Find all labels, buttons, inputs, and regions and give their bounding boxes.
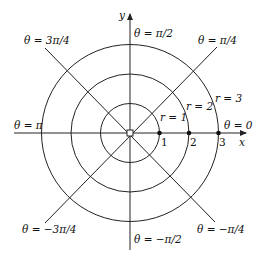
label-r3: r = 3 <box>215 92 242 104</box>
point-r1 <box>157 131 162 136</box>
label-theta-3pi4: θ = 3π/4 <box>24 34 70 46</box>
label-r2: r = 2 <box>186 100 213 112</box>
label-theta-neg-3pi4: θ = −3π/4 <box>22 223 76 235</box>
polar-diagram: 1 2 3 x y r = 1 r = 2 r = 3 θ = 0 θ = π/… <box>0 0 258 262</box>
label-theta-pi2: θ = π/2 <box>134 27 173 39</box>
label-theta-pi: θ = π <box>14 119 44 131</box>
origin-marker <box>127 130 133 136</box>
y-axis-label: y <box>118 9 126 21</box>
label-r1: r = 1 <box>160 111 187 123</box>
point-r3 <box>216 131 221 136</box>
point-r2 <box>187 131 192 136</box>
label-theta-neg-pi4: θ = −π/4 <box>197 223 245 235</box>
label-theta-neg-pi2: θ = −π/2 <box>134 233 182 245</box>
x-axis-label: x <box>239 136 245 148</box>
label-theta-pi4: θ = π/4 <box>198 34 237 46</box>
tick-3: 3 <box>219 136 226 148</box>
tick-1: 1 <box>161 136 168 148</box>
label-theta-0: θ = 0 <box>224 119 253 131</box>
tick-2: 2 <box>190 136 197 148</box>
